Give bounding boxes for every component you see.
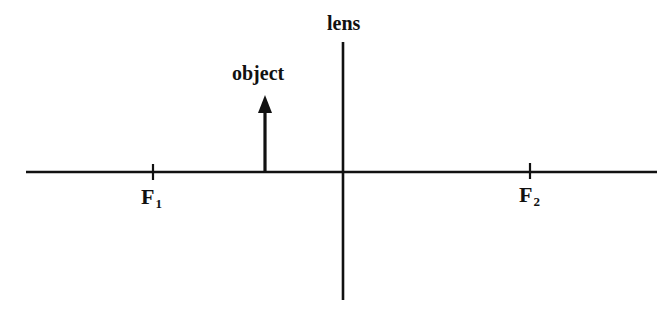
object-label: object [232,62,284,85]
object-arrow [258,95,272,172]
arrowhead-icon [258,95,272,113]
lens-diagram [0,0,671,318]
focal-point-2-base: F [519,182,532,207]
focal-point-2-label: F2 [519,182,540,208]
lens-label: lens [327,12,360,35]
focal-point-1-base: F [141,184,154,209]
focal-point-1-label: F1 [141,184,162,210]
focal-point-2-subscript: 2 [533,194,540,209]
focal-point-1-subscript: 1 [155,196,162,211]
